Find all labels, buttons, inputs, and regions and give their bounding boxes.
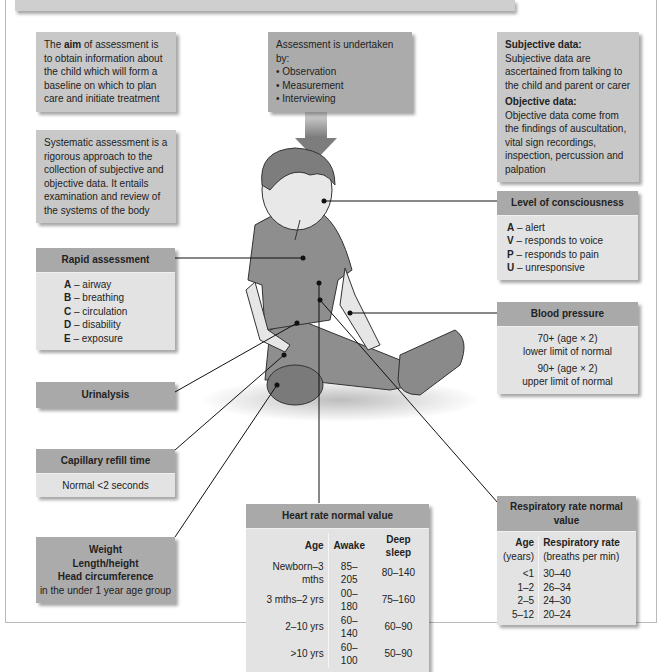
avpu-item: P – responds to pain bbox=[507, 248, 628, 262]
method-item: • Interviewing bbox=[276, 92, 404, 106]
avpu-item: A – alert bbox=[507, 221, 628, 235]
urinalysis-box: Urinalysis bbox=[36, 382, 175, 408]
table-row: <130–40 bbox=[499, 567, 624, 581]
abcde-item: E – exposure bbox=[64, 332, 165, 346]
rapid-assessment-box: Rapid assessment A – airway B – breathin… bbox=[36, 248, 175, 350]
abcde-item: A – airway bbox=[64, 278, 165, 292]
consciousness-box: Level of consciousness A – alert V – res… bbox=[497, 191, 638, 280]
subjective-title: Subjective data: bbox=[505, 38, 631, 52]
urinalysis-title: Urinalysis bbox=[36, 382, 175, 408]
subjective-text: Subjective data are ascertained from tal… bbox=[505, 52, 631, 93]
method-item: • Measurement bbox=[276, 79, 404, 93]
assessment-methods-box: Assessment is undertaken by: • Observati… bbox=[268, 32, 412, 112]
rapid-assessment-title: Rapid assessment bbox=[36, 248, 175, 273]
avpu-item: U – unresponsive bbox=[507, 261, 628, 275]
blood-pressure-box: Blood pressure 70+ (age × 2) lower limit… bbox=[497, 302, 638, 394]
aim-box: The aim of assessment is to obtain infor… bbox=[36, 32, 176, 112]
child-illustration bbox=[200, 148, 480, 422]
growth-measurements-box: Weight Length/height Head circumference … bbox=[36, 537, 175, 603]
objective-title: Objective data: bbox=[505, 95, 631, 109]
consciousness-title: Level of consciousness bbox=[497, 191, 638, 216]
abcde-item: D – disability bbox=[64, 318, 165, 332]
respiratory-rate-box: Respiratory rate normal value AgeRespira… bbox=[497, 496, 636, 625]
capillary-refill-box: Capillary refill time Normal <2 seconds bbox=[36, 449, 175, 497]
systematic-assessment-box: Systematic assessment is a rigorous appr… bbox=[36, 130, 176, 223]
table-row: 5–1220–24 bbox=[499, 608, 624, 622]
capillary-refill-value: Normal <2 seconds bbox=[36, 474, 175, 498]
heart-rate-box: Heart rate normal value Age Awake Deep s… bbox=[246, 504, 429, 672]
respiratory-rate-table: AgeRespiratory rate (years)(breaths per … bbox=[499, 536, 624, 621]
capillary-refill-title: Capillary refill time bbox=[36, 449, 175, 474]
data-types-box: Subjective data: Subjective data are asc… bbox=[497, 32, 639, 182]
avpu-item: V – responds to voice bbox=[507, 234, 628, 248]
heart-rate-table: Age Awake Deep sleep Newborn–3 mths85–20… bbox=[248, 533, 427, 668]
blood-pressure-title: Blood pressure bbox=[497, 302, 638, 327]
objective-text: Objective data come from the findings of… bbox=[505, 109, 631, 177]
heart-rate-title: Heart rate normal value bbox=[246, 504, 429, 529]
table-row: Newborn–3 mths85–20580–140 bbox=[248, 560, 427, 587]
table-row: >10 yrs60–10050–90 bbox=[248, 641, 427, 668]
abcde-item: C – circulation bbox=[64, 305, 165, 319]
table-row: 2–524–30 bbox=[499, 594, 624, 608]
abcde-item: B – breathing bbox=[64, 291, 165, 305]
respiratory-rate-title: Respiratory rate normal value bbox=[497, 496, 636, 532]
table-row: 3 mths–2 yrs00–18075–160 bbox=[248, 587, 427, 614]
table-row: 2–10 yrs60–14060–90 bbox=[248, 614, 427, 641]
table-row: 1–226–34 bbox=[499, 581, 624, 595]
method-item: • Observation bbox=[276, 65, 404, 79]
